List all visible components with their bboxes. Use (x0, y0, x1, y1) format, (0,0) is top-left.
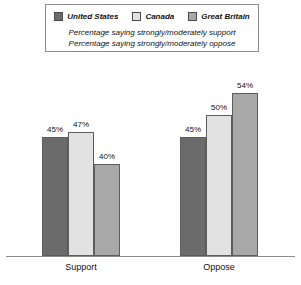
legend-entry-great-britain: Great Britain (188, 12, 249, 21)
bar-oppose-great-britain (232, 93, 258, 256)
bar-oppose-united-states-value-label: 45% (177, 125, 209, 134)
bar-support-great-britain (94, 164, 120, 256)
legend-label-great-britain: Great Britain (201, 12, 249, 21)
legend-swatch-canada (132, 12, 141, 21)
bar-oppose-great-britain-value-label: 54% (229, 81, 261, 90)
legend-entries: United States Canada Great Britain (46, 10, 258, 23)
subtitle-line-oppose: Percentage saying strongly/moderately op… (46, 38, 258, 49)
x-axis-baseline (6, 256, 295, 257)
category-label-oppose: Oppose (179, 262, 259, 273)
bar-chart: United States Canada Great Britain Perce… (0, 0, 301, 285)
plot-area: 45%47%40%45%50%54% (0, 60, 301, 257)
legend-label-canada: Canada (145, 12, 174, 21)
legend-entry-united-states: United States (54, 12, 118, 21)
legend-swatch-united-states (54, 12, 63, 21)
legend-label-united-states: United States (67, 12, 118, 21)
bar-oppose-canada (206, 115, 232, 256)
bar-oppose-united-states (180, 137, 206, 256)
subtitle-line-support: Percentage saying strongly/moderately su… (46, 27, 258, 38)
bar-oppose-canada-value-label: 50% (203, 103, 235, 112)
bar-support-great-britain-value-label: 40% (91, 152, 123, 161)
legend-swatch-great-britain (188, 12, 197, 21)
category-label-support: Support (41, 262, 121, 273)
bar-support-canada-value-label: 47% (65, 120, 97, 129)
legend-box: United States Canada Great Britain Perce… (45, 4, 259, 52)
subtitle-block: Percentage saying strongly/moderately su… (46, 27, 258, 49)
legend-entry-canada: Canada (132, 12, 174, 21)
bar-support-canada (68, 132, 94, 256)
bar-support-united-states (42, 137, 68, 256)
